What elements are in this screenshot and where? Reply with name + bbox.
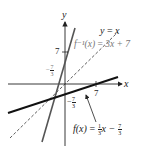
identity-label: y = x [100, 26, 120, 36]
numerator: 7 [50, 64, 54, 71]
y-axis-label: y [62, 10, 66, 20]
identity-rhs: x [115, 25, 119, 36]
frac2-num: 7 [118, 123, 122, 130]
inverse-label: f⁻¹(x) = 3x + 7 [74, 40, 130, 50]
inverse-lhs: f⁻¹(x) [74, 39, 95, 49]
tick-label-x-neg-frac: −73 [67, 96, 76, 109]
function-lhs: f(x) [73, 123, 87, 134]
pointer-arrow [86, 95, 96, 122]
tick-label-y-neg-frac: −73 [46, 64, 54, 77]
function-mid: x − [102, 123, 116, 134]
function-label: f(x) = 13x − 73 [73, 123, 122, 136]
denominator: 3 [50, 71, 54, 77]
shallow-line [8, 77, 118, 113]
inverse-eq: = [97, 39, 102, 49]
tick-label-x-7: 7 [94, 89, 99, 98]
identity-lhs: y [100, 25, 104, 36]
numerator: 7 [72, 96, 76, 103]
function-eq: = [89, 123, 95, 134]
frac2-den: 3 [118, 130, 122, 136]
identity-eq: = [107, 25, 113, 36]
tick-label-y-7: 7 [55, 47, 60, 56]
denominator: 3 [72, 103, 76, 109]
x-axis-label: x [124, 79, 128, 89]
inverse-rhs: 3x + 7 [105, 39, 130, 49]
